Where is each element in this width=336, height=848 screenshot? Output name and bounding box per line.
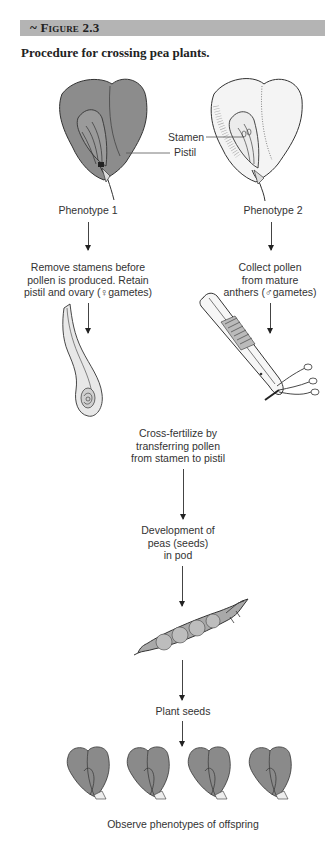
pea-pod-icon	[130, 595, 260, 655]
phenotype-1-label: Phenotype 1	[58, 204, 118, 217]
development-step: Development of peas (seeds) in pod	[128, 524, 228, 562]
arrow-down	[271, 222, 272, 250]
remove-stamens-step: Remove stamens before pollen is produced…	[18, 261, 158, 299]
pistil-label: Pistil	[174, 146, 196, 159]
phenotype-2-label: Phenotype 2	[241, 204, 305, 217]
stamen-label: Stamen	[168, 131, 204, 144]
observe-offspring-step: Observe phenotypes of offspring	[98, 818, 268, 831]
cross-fertilize-step: Cross-fertilize by transferring pollen f…	[118, 427, 238, 465]
plant-seeds-step: Plant seeds	[143, 705, 223, 718]
callout-lines	[0, 0, 336, 848]
offspring-flower-icon	[188, 747, 230, 799]
arrow-down	[88, 222, 89, 250]
forceps-icon	[195, 290, 330, 410]
offspring-flower-icon	[67, 747, 109, 799]
offspring-flower-icon	[249, 747, 291, 799]
offspring-flowers	[60, 745, 310, 805]
arrow-down	[182, 660, 183, 700]
offspring-flower-icon	[127, 747, 169, 799]
arrow-down	[182, 721, 183, 746]
arrow-down	[183, 469, 184, 519]
pistil-ovary-icon	[58, 300, 118, 420]
